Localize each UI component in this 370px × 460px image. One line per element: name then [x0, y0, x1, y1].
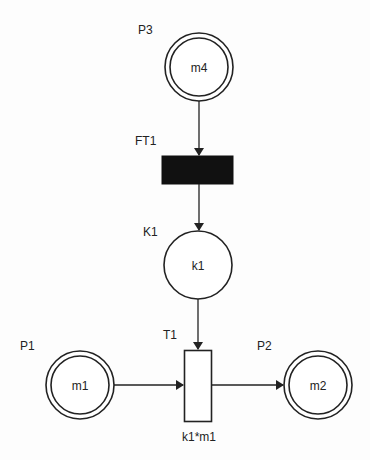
- transition-t1[interactable]: [185, 351, 212, 422]
- place-token-p3: m4: [191, 62, 208, 74]
- transition-label-ft1: FT1: [135, 135, 156, 147]
- transition-label-t1: T1: [163, 329, 177, 341]
- petri-net-diagram: P3 m4 FT1 K1 k1 T1 k1*m1 P1 m1 P2 m2: [0, 0, 370, 460]
- place-token-p2: m2: [310, 380, 327, 392]
- place-label-p3: P3: [138, 24, 153, 36]
- place-token-k1: k1: [192, 260, 205, 272]
- place-label-k1: K1: [143, 226, 158, 238]
- transition-rate-t1: k1*m1: [182, 431, 216, 443]
- transition-ft1[interactable]: [162, 156, 233, 184]
- place-token-p1: m1: [72, 380, 89, 392]
- place-label-p1: P1: [20, 340, 35, 352]
- place-label-p2: P2: [257, 340, 272, 352]
